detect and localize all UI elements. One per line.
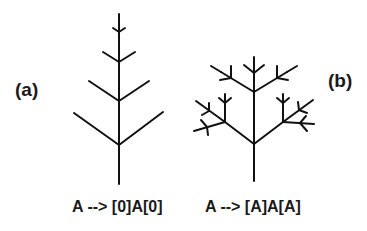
rule-a-caption: A --> [0]A[0] [72,199,163,215]
tree-b-right-branch [254,94,314,144]
rule-b-caption: A --> [A]A[A] [205,199,301,215]
tree-diagram-b [0,0,367,231]
panel-a-label: (a) [15,80,38,99]
tree-b-left-branch [194,94,254,144]
panel-b-label: (b) [328,71,352,90]
